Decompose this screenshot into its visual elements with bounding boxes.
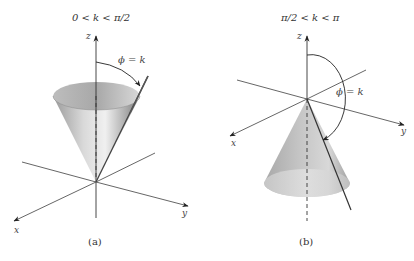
angle-label-b: ϕ = k bbox=[336, 86, 364, 97]
angle-label-a: ϕ = k bbox=[118, 54, 146, 65]
axis-y-back-a bbox=[22, 162, 96, 182]
axis-x-label-b: x bbox=[231, 138, 236, 148]
figure-canvas bbox=[0, 0, 414, 261]
axis-x-back-b bbox=[237, 80, 307, 99]
panel-b bbox=[230, 36, 404, 221]
axis-x-a bbox=[14, 182, 96, 221]
axis-y-label-b: y bbox=[401, 126, 406, 136]
axis-z-label-a: z bbox=[86, 31, 91, 41]
axis-y-label-a: y bbox=[182, 208, 187, 218]
panel-a-caption: (a) bbox=[88, 236, 102, 247]
axis-y-a bbox=[96, 182, 188, 206]
panel-a bbox=[14, 36, 188, 221]
panel-a-title: 0 < k < π/2 bbox=[72, 12, 130, 23]
axis-x-label-a: x bbox=[14, 225, 19, 235]
panel-b-caption: (b) bbox=[299, 236, 313, 247]
axis-z-label-b: z bbox=[297, 31, 302, 41]
axis-y-b bbox=[307, 99, 404, 125]
panel-b-title: π/2 < k < π bbox=[281, 12, 339, 23]
